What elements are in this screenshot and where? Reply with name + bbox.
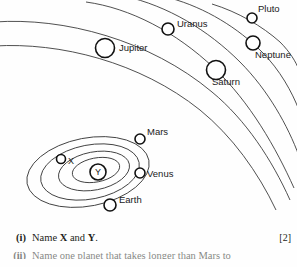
question-item-ii: (ii) Name one planet that takes longer t… — [0, 250, 297, 259]
planet-pluto-icon[interactable] — [247, 13, 257, 23]
planet-uranus-icon[interactable] — [162, 23, 174, 35]
outer-planet-group: Jupiter Uranus Pluto Neptune Saturn — [96, 3, 291, 87]
planet-venus-label: Venus — [147, 168, 174, 179]
question-item-i: (i) Name X and Y. [2] — [0, 232, 297, 243]
planet-uranus-label: Uranus — [177, 18, 208, 29]
planet-pluto-label: Pluto — [258, 3, 280, 14]
planet-earth-icon[interactable] — [104, 199, 116, 211]
planet-marker-x-label: X — [68, 156, 74, 166]
planet-marker-x-icon[interactable] — [57, 155, 66, 164]
planet-neptune-icon[interactable] — [246, 36, 260, 50]
planet-earth-label: Earth — [119, 194, 142, 205]
planet-saturn-label: Saturn — [212, 76, 240, 87]
planet-jupiter-icon[interactable] — [96, 39, 115, 58]
question-text-i: Name X and Y. — [32, 232, 275, 243]
question-text-ii: Name one planet that takes longer than M… — [32, 250, 291, 259]
solar-system-diagram: Jupiter Uranus Pluto Neptune Saturn Mars… — [0, 0, 297, 232]
question-i-text-before: Name — [32, 232, 60, 243]
planet-neptune-label: Neptune — [255, 49, 291, 60]
exam-question-page: Jupiter Uranus Pluto Neptune Saturn Mars… — [0, 0, 297, 267]
question-number-ii: (ii) — [0, 250, 32, 259]
orbit-arc-uranus — [86, 2, 294, 188]
planet-mars-icon[interactable] — [135, 134, 145, 144]
question-list: (i) Name X and Y. [2] (ii) Name one plan… — [0, 230, 297, 267]
question-i-text-mid: and — [67, 232, 87, 243]
question-i-text-after: . — [95, 232, 98, 243]
question-i-marks: [2] — [275, 232, 291, 243]
question-number-i: (i) — [0, 232, 32, 243]
planet-mars-label: Mars — [147, 126, 168, 137]
planet-marker-y-label: Y — [95, 167, 101, 177]
planet-jupiter-label: Jupiter — [119, 42, 148, 53]
planet-venus-icon[interactable] — [135, 168, 145, 178]
